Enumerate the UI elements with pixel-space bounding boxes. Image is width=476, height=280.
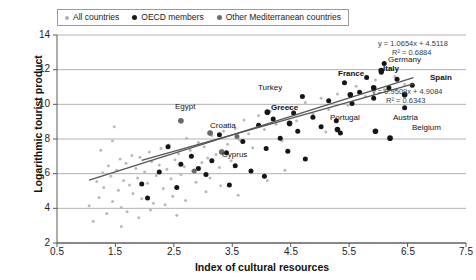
data-point xyxy=(203,172,208,177)
point-label-germany: Germany xyxy=(388,56,421,64)
data-point xyxy=(303,156,308,161)
data-point xyxy=(113,125,116,128)
data-point xyxy=(374,79,377,82)
labeled-point-croatia xyxy=(207,130,213,136)
data-point xyxy=(99,149,102,152)
data-point xyxy=(119,157,122,160)
data-point xyxy=(174,158,177,161)
point-label-austria: Austria xyxy=(393,114,418,122)
data-point xyxy=(247,132,250,135)
data-point xyxy=(242,118,245,121)
data-point xyxy=(319,124,324,129)
data-point xyxy=(238,138,241,141)
trendline-all-countries-fit xyxy=(89,78,413,180)
data-point xyxy=(122,179,125,182)
labeled-point-portugal xyxy=(335,127,341,133)
data-point xyxy=(146,182,149,185)
data-point xyxy=(120,206,123,209)
data-point xyxy=(166,144,171,149)
data-point xyxy=(131,192,134,195)
labeled-point-austria xyxy=(373,128,379,134)
data-point xyxy=(320,97,323,100)
data-point xyxy=(218,166,221,169)
data-point xyxy=(189,154,194,159)
data-point xyxy=(346,104,349,107)
data-point xyxy=(295,119,298,122)
data-point xyxy=(189,149,192,152)
data-point xyxy=(237,194,240,197)
data-point xyxy=(109,175,112,178)
data-point xyxy=(120,225,123,228)
data-point xyxy=(214,153,217,156)
data-point xyxy=(203,145,206,148)
data-point xyxy=(217,132,222,137)
data-point xyxy=(117,189,120,192)
data-point xyxy=(248,169,253,174)
data-point xyxy=(174,185,179,190)
data-point xyxy=(295,129,300,134)
data-point xyxy=(179,173,182,176)
point-label-cyprus: Cyprus xyxy=(222,151,247,159)
data-point xyxy=(278,136,283,141)
data-point xyxy=(183,165,186,168)
point-label-turkey: Turkey xyxy=(258,84,282,92)
data-point xyxy=(206,157,209,160)
data-point xyxy=(136,177,139,180)
data-point xyxy=(226,143,229,146)
data-point xyxy=(137,216,140,219)
data-point xyxy=(355,85,358,88)
labeled-point-france xyxy=(348,92,354,98)
data-point xyxy=(219,184,222,187)
data-point xyxy=(128,183,131,186)
data-point xyxy=(240,139,245,144)
point-label-egypt: Egypt xyxy=(175,103,195,111)
data-point xyxy=(342,80,347,85)
data-point xyxy=(185,137,188,140)
data-point xyxy=(264,146,269,151)
data-point xyxy=(155,174,158,177)
data-point xyxy=(157,169,162,174)
data-point xyxy=(139,182,144,187)
data-point xyxy=(178,162,183,167)
data-point xyxy=(162,187,165,190)
data-point xyxy=(175,214,178,217)
data-point xyxy=(138,156,141,159)
data-point xyxy=(143,170,146,173)
data-point xyxy=(145,195,150,200)
data-point xyxy=(165,168,168,171)
data-point xyxy=(169,177,172,180)
data-point xyxy=(88,204,91,207)
data-point xyxy=(364,75,369,80)
data-point xyxy=(285,149,290,154)
data-point xyxy=(184,199,187,202)
data-point xyxy=(158,164,161,167)
data-point xyxy=(95,180,98,183)
data-point xyxy=(227,182,232,187)
data-point xyxy=(402,105,407,110)
point-label-belgium: Belgium xyxy=(412,124,441,132)
data-point xyxy=(197,141,200,144)
data-point xyxy=(130,154,133,157)
data-point xyxy=(101,171,104,174)
data-point xyxy=(124,162,127,165)
data-point xyxy=(164,203,167,206)
point-label-croatia: Croatia xyxy=(210,122,236,130)
labeled-point-turkey xyxy=(265,109,271,115)
data-point xyxy=(149,209,152,212)
labeled-point-greece xyxy=(287,121,293,127)
data-point xyxy=(200,161,203,164)
data-point xyxy=(195,181,198,184)
data-point xyxy=(204,190,207,193)
data-point xyxy=(262,174,267,179)
point-label-italy: Italy xyxy=(383,65,399,73)
data-point xyxy=(304,101,307,104)
fit-r2-oecd: R² = 0.6343 xyxy=(386,97,425,106)
data-point xyxy=(324,131,327,134)
data-point xyxy=(152,202,155,205)
data-point xyxy=(230,159,233,162)
point-label-greece: Greece xyxy=(271,104,298,112)
data-point xyxy=(111,200,114,203)
data-point xyxy=(92,220,95,223)
point-label-portugal: Portugal xyxy=(330,114,360,122)
point-label-france: France xyxy=(338,70,364,78)
